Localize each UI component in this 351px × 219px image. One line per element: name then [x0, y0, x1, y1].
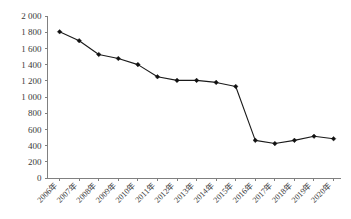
x-tick-label: 2010年	[113, 180, 137, 204]
x-tick-label: 2018年	[270, 180, 294, 204]
series-line	[60, 32, 334, 144]
y-tick-label: 1 800	[21, 27, 42, 37]
y-tick-label: 1 400	[21, 60, 42, 70]
y-tick-label: 1 200	[21, 76, 42, 86]
x-axis-group: 2006年2007年2008年2009年2010年2011年2012年2013年…	[35, 178, 341, 205]
y-tick-label: 400	[28, 141, 42, 151]
data-point-marker	[253, 138, 258, 143]
x-tick-label: 2013年	[172, 180, 196, 204]
data-series-group	[57, 29, 336, 145]
y-tick-label: 1 000	[21, 92, 42, 102]
x-tick-label: 2006年	[35, 180, 59, 204]
series-markers	[57, 29, 336, 145]
x-tick-label: 2016年	[230, 180, 254, 204]
x-tick-label-group: 2006年2007年2008年2009年2010年2011年2012年2013年…	[35, 180, 333, 204]
data-point-marker	[116, 56, 121, 61]
x-tick-label: 2011年	[133, 180, 157, 204]
data-point-marker	[194, 78, 199, 83]
x-tick-label: 2015年	[211, 180, 235, 204]
y-tick-label: 0	[37, 173, 42, 183]
x-tick-label: 2007年	[54, 180, 78, 204]
y-tick-label: 2 000	[21, 11, 42, 21]
x-tick-label: 2019年	[289, 180, 313, 204]
y-tick-label: 1 600	[21, 44, 42, 54]
x-tick-label: 2012年	[152, 180, 176, 204]
data-point-marker	[175, 78, 180, 83]
line-chart: 02004006008001 0001 2001 4001 6001 8002 …	[0, 0, 351, 219]
data-point-marker	[214, 80, 219, 85]
y-tick-label: 600	[28, 125, 42, 135]
data-point-marker	[273, 141, 278, 146]
chart-canvas: 02004006008001 0001 2001 4001 6001 8002 …	[0, 0, 351, 219]
y-tick-label: 800	[28, 108, 42, 118]
x-tick-label: 2009年	[93, 180, 117, 204]
data-point-marker	[312, 134, 317, 139]
y-axis-group: 02004006008001 0001 2001 4001 6001 8002 …	[21, 11, 47, 183]
x-tick-label: 2014年	[191, 180, 215, 204]
y-tick-label: 200	[28, 157, 42, 167]
x-tick-label: 2017年	[250, 180, 274, 204]
data-point-marker	[292, 138, 297, 143]
y-tick-label-group: 02004006008001 0001 2001 4001 6001 8002 …	[21, 11, 42, 183]
data-point-marker	[233, 84, 238, 89]
x-tick-label: 2008年	[74, 180, 98, 204]
x-tick-label: 2020年	[309, 180, 333, 204]
data-point-marker	[331, 136, 336, 141]
data-point-marker	[57, 29, 62, 34]
